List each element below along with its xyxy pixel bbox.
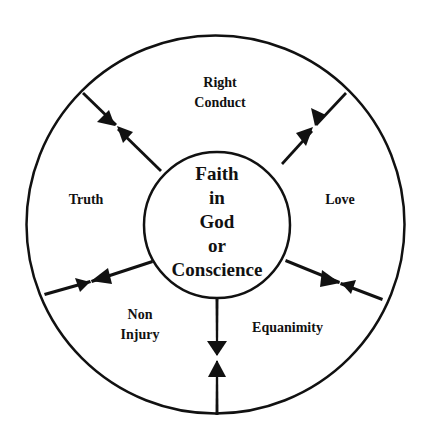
segment-label-truth: Truth (56, 190, 116, 210)
divider-arrow-upper-left (82, 92, 162, 172)
segment-label-equanimity: Equanimity (240, 318, 335, 338)
divider-arrow-right (285, 259, 383, 301)
label-line: Conduct (175, 93, 265, 113)
divider-arrow-bottom (207, 298, 227, 415)
label-line: Equanimity (240, 318, 335, 338)
center-line: Faith (157, 162, 277, 186)
divider-arrow-upper-right (281, 92, 347, 165)
label-line: Truth (56, 190, 116, 210)
segment-label-love: Love (310, 190, 370, 210)
center-label: Faith in God or Conscience (157, 162, 277, 282)
label-line: Right (175, 73, 265, 93)
label-line: Love (310, 190, 370, 210)
segment-label-non-injury: Non Injury (110, 305, 170, 345)
divider-arrow-left (44, 260, 153, 296)
center-line: God (157, 210, 277, 234)
label-line: Non (110, 305, 170, 325)
center-line: Conscience (157, 258, 277, 282)
label-line: Injury (110, 325, 170, 345)
center-line: in (157, 186, 277, 210)
segment-label-right-conduct: Right Conduct (175, 73, 265, 113)
center-line: or (157, 234, 277, 258)
